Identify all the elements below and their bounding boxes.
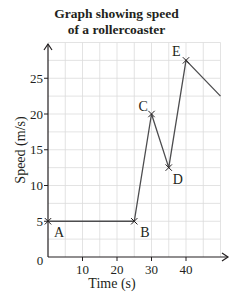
y-tick-label: 20 [30,107,43,122]
x-tick-label: 20 [111,262,124,277]
point-label-c: C [139,99,148,114]
point-label-b: B [140,225,149,240]
y-axis-title: Speed (m/s) [13,116,29,184]
axes [44,44,228,261]
x-tick-label: 40 [180,262,193,277]
y-tick-label: 25 [30,71,43,86]
y-tick-label: 10 [30,178,43,193]
grid [48,43,221,258]
point-label-a: A [54,225,65,240]
ticks: 10203040510152025 [30,71,193,277]
y-tick-label: 5 [37,214,44,229]
x-axis-title: Time (s) [88,276,136,292]
x-tick-label: 30 [145,262,158,277]
origin-label: 0 [37,253,44,268]
y-tick-label: 15 [30,142,43,157]
point-label-e: E [172,44,181,59]
speed-time-chart: 10203040510152025 0 Time (s) Speed (m/s)… [0,0,233,302]
point-label-d: D [173,172,183,187]
x-tick-label: 10 [76,262,89,277]
